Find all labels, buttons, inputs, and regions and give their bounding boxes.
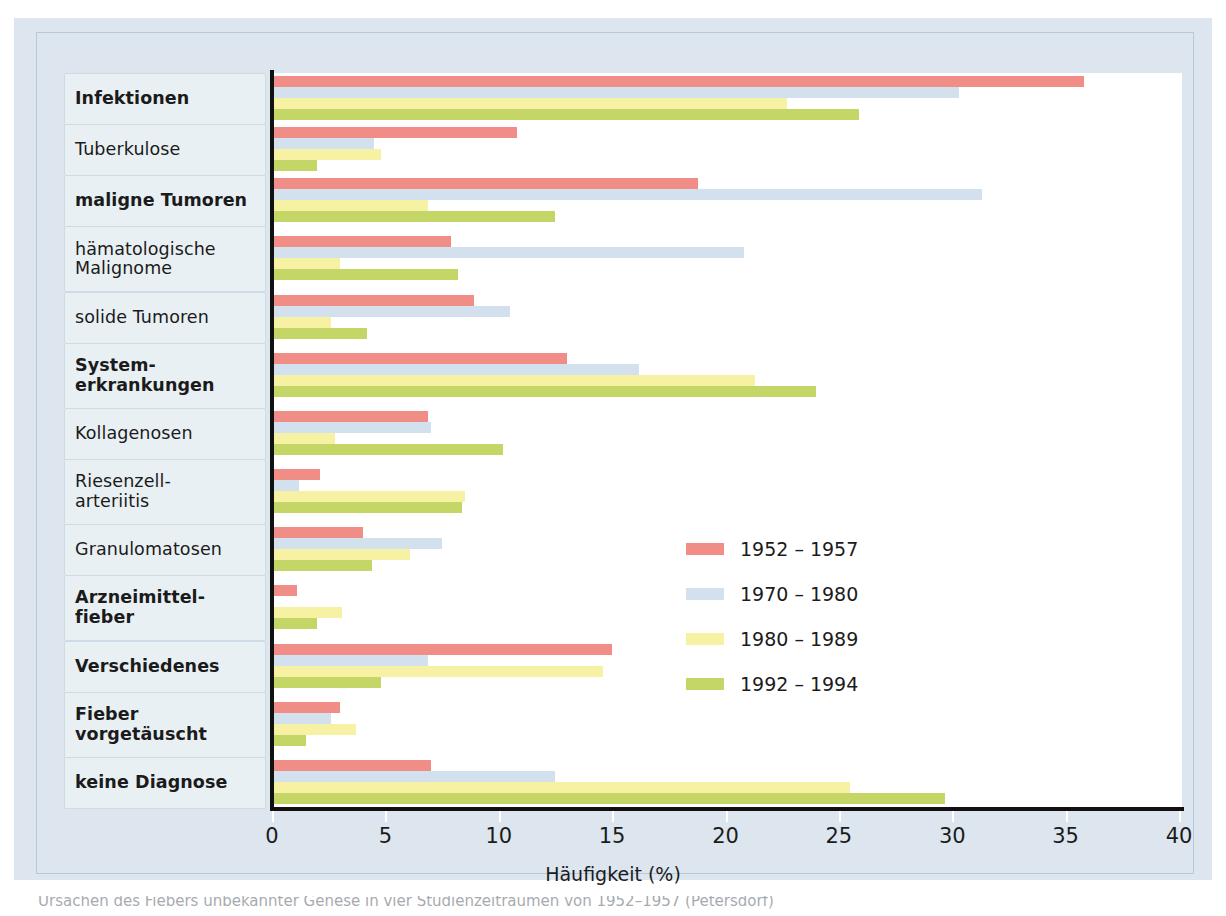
- bar: [272, 422, 431, 433]
- category-label-line: Infektionen: [75, 89, 189, 109]
- bar: [272, 386, 816, 397]
- figure-caption: Ursachen des Fiebers unbekannter Genese …: [38, 896, 1218, 910]
- legend-swatch-icon: [686, 678, 724, 690]
- category-row-4: hämatologischeMalignome: [64, 226, 266, 292]
- bar: [272, 149, 381, 160]
- y-axis-line: [270, 70, 274, 811]
- category-label: Tuberkulose: [75, 140, 180, 160]
- bar: [272, 549, 410, 560]
- x-tick-mark: [272, 811, 274, 822]
- category-label-line: fieber: [75, 608, 205, 628]
- category-row-10: Arzneimittel-fieber: [64, 575, 266, 641]
- bar: [272, 491, 465, 502]
- x-tick-label: 35: [1052, 824, 1079, 848]
- bar: [272, 560, 372, 571]
- bar: [272, 527, 363, 538]
- category-label-line: maligne Tumoren: [75, 191, 247, 211]
- legend-swatch-icon: [686, 588, 724, 600]
- bar: [272, 735, 306, 746]
- category-label: System-erkrankungen: [75, 356, 215, 396]
- x-tick-mark: [1066, 811, 1068, 822]
- bar: [272, 618, 317, 629]
- bar: [272, 269, 458, 280]
- x-tick-label: 30: [939, 824, 966, 848]
- bar: [272, 677, 381, 688]
- bar: [272, 724, 356, 735]
- x-tick-label: 5: [379, 824, 392, 848]
- bar: [272, 178, 698, 189]
- category-label-line: Verschiedenes: [75, 657, 220, 677]
- bar: [272, 189, 982, 200]
- bar: [272, 782, 850, 793]
- category-label-line: solide Tumoren: [75, 308, 209, 328]
- bar: [272, 771, 555, 782]
- bar: [272, 713, 331, 724]
- category-row-6: System-erkrankungen: [64, 343, 266, 409]
- bar: [272, 247, 744, 258]
- bar: [272, 160, 317, 171]
- bar: [272, 127, 517, 138]
- bar: [272, 258, 340, 269]
- bar: [272, 644, 612, 655]
- legend-swatch-icon: [686, 543, 724, 555]
- category-row-2: Tuberkulose: [64, 124, 266, 176]
- bar: [272, 760, 431, 771]
- legend-item: 1980 – 1989: [686, 616, 916, 661]
- category-row-3: maligne Tumoren: [64, 175, 266, 227]
- bar: [272, 138, 374, 149]
- category-label: maligne Tumoren: [75, 191, 247, 211]
- category-label: Kollagenosen: [75, 424, 193, 444]
- legend-label: 1992 – 1994: [740, 673, 858, 695]
- category-label-line: Riesenzell-: [75, 472, 171, 492]
- x-tick-mark: [385, 811, 387, 822]
- category-row-13: keine Diagnose: [64, 757, 266, 809]
- category-label-line: Granulomatosen: [75, 540, 222, 560]
- bar: [272, 666, 603, 677]
- x-tick-mark: [499, 811, 501, 822]
- bar: [272, 200, 428, 211]
- category-label: Granulomatosen: [75, 540, 222, 560]
- bar: [272, 480, 299, 491]
- bar: [272, 328, 367, 339]
- category-row-1: Infektionen: [64, 73, 266, 125]
- x-tick-label: 0: [265, 824, 278, 848]
- bar: [272, 469, 320, 480]
- bar: [272, 702, 340, 713]
- category-label-line: arteriitis: [75, 492, 171, 512]
- x-tick-label: 40: [1166, 824, 1193, 848]
- legend-item: 1970 – 1980: [686, 571, 916, 616]
- category-label-line: Fieber: [75, 705, 207, 725]
- bar: [272, 538, 442, 549]
- bar: [272, 375, 755, 386]
- category-label: Verschiedenes: [75, 657, 220, 677]
- category-label-line: keine Diagnose: [75, 773, 227, 793]
- bar: [272, 98, 787, 109]
- category-label: Riesenzell-arteriitis: [75, 472, 171, 512]
- bar: [272, 76, 1084, 87]
- category-label-line: Kollagenosen: [75, 424, 193, 444]
- bar: [272, 236, 451, 247]
- category-row-11: Verschiedenes: [64, 641, 266, 693]
- category-label-line: vorgetäuscht: [75, 725, 207, 745]
- category-row-5: solide Tumoren: [64, 292, 266, 344]
- x-tick-mark: [1179, 811, 1181, 822]
- category-label-line: Malignome: [75, 259, 216, 279]
- category-label: Infektionen: [75, 89, 189, 109]
- x-tick-label: 20: [712, 824, 739, 848]
- bar: [272, 655, 428, 666]
- bar: [272, 295, 474, 306]
- bar: [272, 317, 331, 328]
- bar: [272, 109, 859, 120]
- bar: [272, 502, 462, 513]
- category-label-line: Tuberkulose: [75, 140, 180, 160]
- x-tick-label: 15: [599, 824, 626, 848]
- category-label-line: System-: [75, 356, 215, 376]
- legend-label: 1952 – 1957: [740, 538, 858, 560]
- category-label-line: Arzneimittel-: [75, 588, 205, 608]
- legend-label: 1970 – 1980: [740, 583, 858, 605]
- category-label: Fiebervorgetäuscht: [75, 705, 207, 745]
- category-label-column: InfektionenTuberkulosemaligne Tumorenhäm…: [64, 73, 266, 808]
- legend-label: 1980 – 1989: [740, 628, 858, 650]
- category-label: hämatologischeMalignome: [75, 240, 216, 280]
- x-tick-mark: [952, 811, 954, 822]
